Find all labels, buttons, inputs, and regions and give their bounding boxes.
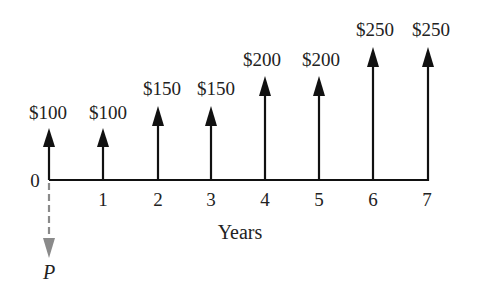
cash-flow-arrow-year-6 <box>367 47 379 180</box>
origin-label: 0 <box>30 170 40 191</box>
arrowhead-up-icon <box>205 106 217 126</box>
cash-flow-arrow-year-7 <box>422 47 434 181</box>
period-label-4: 4 <box>260 189 270 210</box>
arrowhead-up-icon <box>97 128 109 147</box>
arrowhead-up-icon <box>313 76 325 96</box>
cash-flow-label-year-4: $200 <box>243 49 281 70</box>
cash-flow-labels: $100 $100 $150 $150 $200 $200 $250 $250 <box>29 19 450 123</box>
cash-flow-label-year-2: $150 <box>143 78 181 99</box>
cash-flow-label-year-3: $150 <box>197 78 235 99</box>
cash-flow-arrow-year-2 <box>152 106 164 180</box>
period-label-5: 5 <box>314 189 324 210</box>
period-labels: 1 2 3 4 5 6 7 <box>98 189 432 210</box>
present-value-label: P <box>42 261 55 283</box>
cash-flow-label-year-1: $100 <box>89 102 127 123</box>
period-label-7: 7 <box>422 189 432 210</box>
cash-flow-arrow-year-0 <box>43 128 55 180</box>
cash-flow-arrow-year-3 <box>205 106 217 180</box>
cash-flow-label-year-0: $100 <box>29 102 67 123</box>
cash-flow-label-year-5: $200 <box>302 49 340 70</box>
arrowhead-up-icon <box>152 106 164 126</box>
period-label-2: 2 <box>153 189 163 210</box>
arrowhead-up-icon <box>43 128 55 147</box>
cash-flow-arrow-year-4 <box>259 76 271 180</box>
arrowhead-down-icon <box>43 238 55 258</box>
period-label-6: 6 <box>368 189 378 210</box>
arrowhead-up-icon <box>422 47 434 67</box>
period-label-3: 3 <box>206 189 216 210</box>
period-label-1: 1 <box>98 189 108 210</box>
cash-flow-arrow-year-1 <box>97 128 109 180</box>
present-value-arrow <box>43 183 55 258</box>
cash-flow-label-year-6: $250 <box>356 19 394 40</box>
cash-flow-diagram: 0 1 2 3 4 5 6 7 Years <box>0 0 477 304</box>
arrowhead-up-icon <box>259 76 271 96</box>
axis-label-years: Years <box>218 221 263 243</box>
cash-flow-label-year-7: $250 <box>412 19 450 40</box>
cash-flow-arrow-year-5 <box>313 76 325 180</box>
arrowhead-up-icon <box>367 47 379 67</box>
